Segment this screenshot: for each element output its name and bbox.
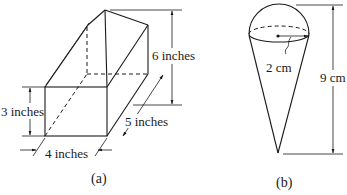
total-height-label: 6 inches xyxy=(152,48,195,63)
front-face xyxy=(45,87,107,136)
dimension-width: 4 inches xyxy=(20,138,112,161)
apex-ridge-edge xyxy=(105,10,148,25)
width-label: 4 inches xyxy=(45,146,88,161)
cone-left-side xyxy=(249,35,278,153)
cone-right-side xyxy=(278,35,309,153)
figure-b-caption: (b) xyxy=(276,175,293,191)
figure-b-cone-hemisphere xyxy=(249,4,309,153)
hidden-left-depth xyxy=(45,74,87,136)
diagram-canvas: 3 inches 6 inches 5 inches 4 inches (a) xyxy=(0,0,347,195)
radius-label: 2 cm xyxy=(266,60,292,75)
depth-label: 5 inches xyxy=(125,114,168,129)
cone-height-label: 9 cm xyxy=(320,70,346,85)
right-top-slant-edge xyxy=(107,25,148,87)
radius-leader xyxy=(285,37,291,54)
front-height-label: 3 inches xyxy=(1,104,44,119)
ellipse-hidden-half xyxy=(249,26,309,34)
dimension-depth: 5 inches xyxy=(123,75,168,136)
figure-a-caption: (a) xyxy=(91,171,107,187)
front-apex-edge xyxy=(105,10,107,87)
hemisphere-arc xyxy=(249,4,309,34)
dimension-front-height: 3 inches xyxy=(0,87,45,136)
left-slant-edge-2 xyxy=(46,23,89,85)
left-apex-edge xyxy=(88,10,105,25)
